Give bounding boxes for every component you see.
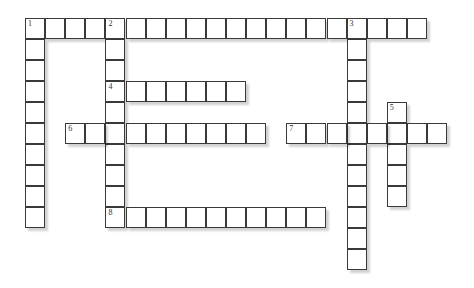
crossword-cell[interactable]	[25, 144, 45, 165]
crossword-cell[interactable]: 2	[105, 18, 125, 39]
crossword-cell[interactable]	[306, 18, 326, 39]
crossword-cell[interactable]	[25, 39, 45, 60]
crossword-cell[interactable]	[347, 249, 367, 270]
crossword-cell[interactable]	[25, 102, 45, 123]
crossword-cell[interactable]	[367, 18, 387, 39]
clue-number: 7	[289, 124, 293, 133]
crossword-cell[interactable]	[105, 102, 125, 123]
crossword-cell[interactable]	[25, 186, 45, 207]
crossword-cell[interactable]	[246, 18, 266, 39]
crossword-cell[interactable]	[126, 18, 146, 39]
crossword-cell[interactable]	[347, 186, 367, 207]
crossword-cell[interactable]	[226, 18, 246, 39]
crossword-cell[interactable]	[246, 207, 266, 228]
crossword-cell[interactable]	[347, 144, 367, 165]
crossword-cell[interactable]	[126, 81, 146, 102]
crossword-cell[interactable]: 6	[65, 123, 85, 144]
crossword-cell[interactable]	[327, 18, 347, 39]
crossword-cell[interactable]	[25, 60, 45, 81]
crossword-cell[interactable]	[266, 207, 286, 228]
clue-number: 1	[28, 19, 32, 28]
crossword-cell[interactable]	[166, 81, 186, 102]
crossword-cell[interactable]	[25, 123, 45, 144]
crossword-cell[interactable]	[347, 102, 367, 123]
crossword-cell[interactable]	[25, 165, 45, 186]
crossword-cell[interactable]	[105, 60, 125, 81]
crossword-cell[interactable]	[126, 123, 146, 144]
crossword-cell[interactable]: 1	[25, 18, 45, 39]
crossword-cell[interactable]	[427, 123, 447, 144]
crossword-cell[interactable]	[387, 123, 407, 144]
crossword-cell[interactable]	[347, 60, 367, 81]
crossword-cell[interactable]	[146, 18, 166, 39]
clue-number: 6	[68, 124, 72, 133]
clue-number: 8	[108, 208, 112, 217]
crossword-cell[interactable]	[105, 123, 125, 144]
crossword-cell[interactable]	[226, 207, 246, 228]
crossword-cell[interactable]	[306, 207, 326, 228]
clue-number: 5	[390, 103, 394, 112]
crossword-cell[interactable]: 3	[347, 18, 367, 39]
crossword-cell[interactable]	[166, 18, 186, 39]
crossword-cell[interactable]	[146, 81, 166, 102]
clue-number: 2	[108, 19, 112, 28]
crossword-cell[interactable]	[226, 81, 246, 102]
crossword-cell[interactable]	[146, 207, 166, 228]
crossword-cell[interactable]	[387, 144, 407, 165]
crossword-cell[interactable]	[105, 39, 125, 60]
crossword-cell[interactable]	[146, 123, 166, 144]
crossword-cell[interactable]	[186, 207, 206, 228]
crossword-cell[interactable]	[327, 123, 347, 144]
crossword-cell[interactable]	[105, 165, 125, 186]
crossword-cell[interactable]	[206, 207, 226, 228]
crossword-cell[interactable]	[85, 18, 105, 39]
crossword-cell[interactable]	[105, 144, 125, 165]
crossword-cell[interactable]	[387, 165, 407, 186]
crossword-cell[interactable]	[166, 207, 186, 228]
crossword-cell[interactable]	[347, 81, 367, 102]
crossword-cell[interactable]	[387, 18, 407, 39]
crossword-cell[interactable]	[347, 39, 367, 60]
crossword-cell[interactable]	[367, 123, 387, 144]
crossword-cell[interactable]	[166, 123, 186, 144]
crossword-cell[interactable]: 8	[105, 207, 125, 228]
crossword-cell[interactable]: 4	[105, 81, 125, 102]
crossword-cell[interactable]	[126, 207, 146, 228]
crossword-cell[interactable]	[407, 123, 427, 144]
crossword-cell[interactable]	[286, 18, 306, 39]
crossword-cell[interactable]	[186, 18, 206, 39]
crossword-cell[interactable]	[347, 123, 367, 144]
crossword-cell[interactable]	[186, 81, 206, 102]
crossword-cell[interactable]	[347, 165, 367, 186]
crossword-cell[interactable]: 5	[387, 102, 407, 123]
crossword-cell[interactable]	[407, 18, 427, 39]
clue-number: 3	[350, 19, 354, 28]
crossword-cell[interactable]	[206, 123, 226, 144]
crossword-cell[interactable]	[306, 123, 326, 144]
crossword-cell[interactable]	[25, 81, 45, 102]
clue-number: 4	[108, 82, 112, 91]
crossword-cell[interactable]	[186, 123, 206, 144]
crossword-cell[interactable]	[85, 123, 105, 144]
crossword-cell[interactable]	[246, 123, 266, 144]
crossword-cell[interactable]	[226, 123, 246, 144]
crossword-cell[interactable]	[25, 207, 45, 228]
crossword-cell[interactable]	[266, 18, 286, 39]
crossword-cell[interactable]	[45, 18, 65, 39]
crossword-cell[interactable]	[347, 228, 367, 249]
crossword-cell[interactable]	[387, 186, 407, 207]
crossword-cell[interactable]	[65, 18, 85, 39]
crossword-cell[interactable]	[206, 81, 226, 102]
crossword-cell[interactable]: 7	[286, 123, 306, 144]
crossword-cell[interactable]	[105, 186, 125, 207]
crossword-cell[interactable]	[347, 207, 367, 228]
crossword-cell[interactable]	[206, 18, 226, 39]
crossword-cell[interactable]	[286, 207, 306, 228]
